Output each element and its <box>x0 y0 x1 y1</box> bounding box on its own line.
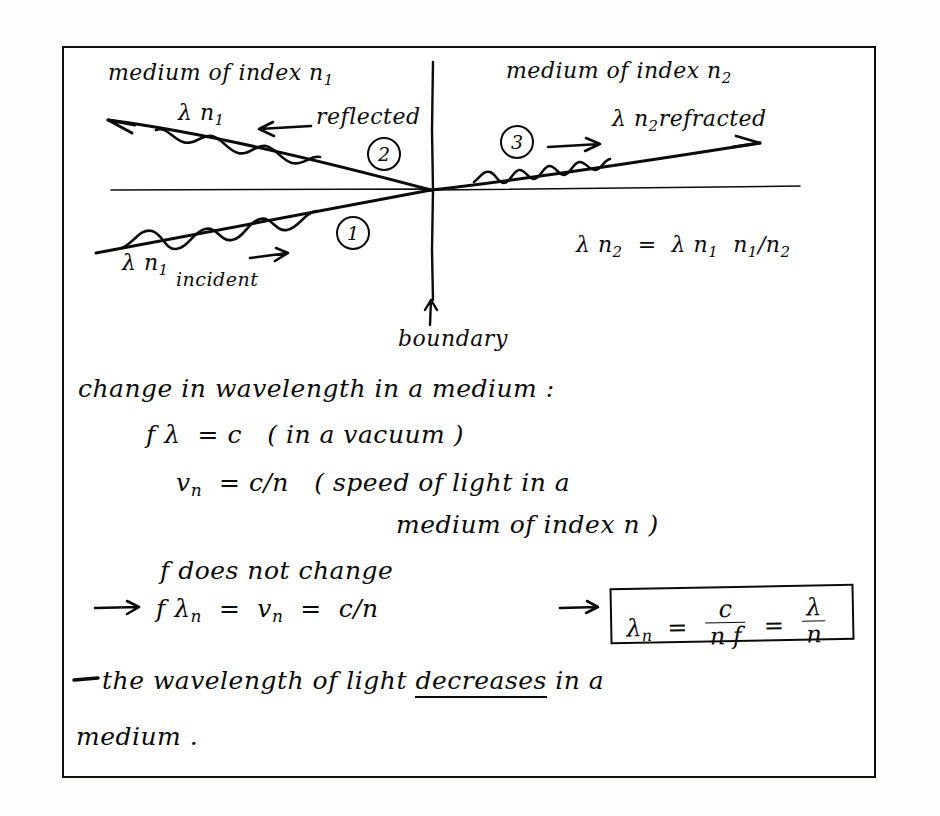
notes-heading: change in wavelength in a medium : <box>78 374 555 403</box>
label-medium-right-subscript: 2 <box>722 69 732 87</box>
ray-number-incident: 1 <box>336 216 370 250</box>
conclusion-text-before: the wavelength of light <box>102 666 415 695</box>
equation-vn-continuation: medium of index n ) <box>396 510 659 539</box>
label-boundary: boundary <box>398 326 508 351</box>
ray-number-reflected: 2 <box>367 137 401 171</box>
note-f-constant: f does not change <box>160 556 393 585</box>
reflected-lambda-subscript: 1 <box>215 111 225 129</box>
label-incident-word: incident <box>176 268 258 290</box>
incident-lambda-subscript: 1 <box>159 261 169 279</box>
equation-vn: vn = c/n ( speed of light in a <box>176 468 570 500</box>
label-medium-right: medium of index n2 <box>506 58 732 87</box>
conclusion-line-1: the wavelength of light decreases in a <box>102 666 604 695</box>
label-medium-left: medium of index n1 <box>108 60 334 89</box>
label-reflected-lambda: λ n1 <box>178 100 225 129</box>
conclusion-emphasis-decreases: decreases <box>415 666 546 698</box>
conclusion-line-2: medium . <box>76 722 198 751</box>
equation-implication: f λn = vn = c/n <box>156 594 379 626</box>
equation-f-lambda-c: f λ = c ( in a vacuum ) <box>146 420 464 449</box>
side-equation: λ n2 = λ n1 n1/n2 <box>576 232 790 261</box>
boxed-result-border: λn = c n f = λ n <box>609 584 854 645</box>
label-incident-lambda: λ n1 <box>122 250 169 279</box>
fraction-c-over-nf: c n f <box>705 597 746 650</box>
boxed-result-equation: λn = c n f = λ n <box>626 595 829 651</box>
fraction-lambda-over-n: λ n <box>802 595 826 647</box>
label-medium-left-subscript: 1 <box>324 71 334 89</box>
label-refracted-word: refracted <box>659 106 767 131</box>
note-page: medium of index n1 medium of index n2 λ … <box>0 0 940 816</box>
label-refracted-lambda: λ n2refracted <box>612 106 767 135</box>
ray-number-refracted: 3 <box>500 125 534 159</box>
conclusion-text-after: in a <box>547 666 604 695</box>
label-reflected-word: reflected <box>316 104 421 129</box>
refracted-lambda-subscript: 2 <box>649 117 659 135</box>
